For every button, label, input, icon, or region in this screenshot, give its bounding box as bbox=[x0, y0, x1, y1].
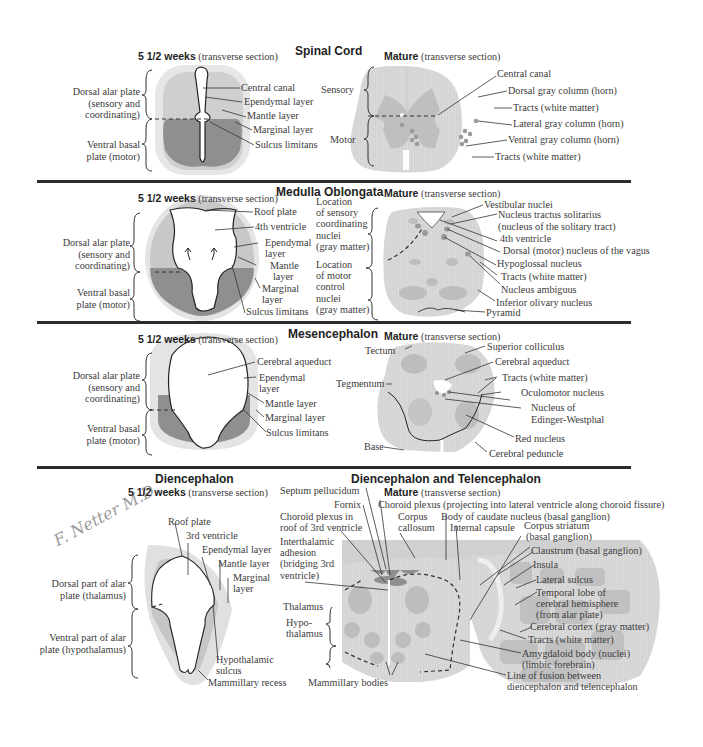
label-nucleus-tractus-solitarius: Nucleus tractus solitarius bbox=[498, 209, 601, 221]
label-roof-plate-dien: Roof plate bbox=[168, 516, 211, 528]
label-tracts-white-1: Tracts (white matter) bbox=[513, 102, 599, 114]
spinal-embryo-subtitle: 5 1/2 weeks (transverse section) bbox=[138, 50, 278, 62]
label-ependymal-layer: Ependymal layer bbox=[244, 96, 313, 108]
diencephalon-embryo-left-labels-ventral: Ventral part of alar plate (hypothalamus… bbox=[20, 632, 126, 655]
label-lateral-sulcus: Lateral sulcus bbox=[536, 574, 593, 586]
label-cerebral-cortex: Cerebral cortex (gray matter) bbox=[530, 621, 649, 633]
section-divider-3 bbox=[37, 466, 631, 469]
label-motor: Motor bbox=[330, 134, 355, 146]
diencephalon-embryo-left-labels-dorsal: Dorsal part of alar plate (thalamus) bbox=[20, 578, 126, 601]
label-tracts-white-telen: Tracts (white matter) bbox=[528, 634, 614, 646]
label-choroid-plexus-projecting: Choroid plexus (projecting into lateral … bbox=[378, 499, 664, 511]
label-dorsal-gray-column: Dorsal gray column (horn) bbox=[508, 85, 617, 97]
label-line-of-fusion: Line of fusion between diencephalon and … bbox=[507, 670, 638, 692]
label-sulcus-limitans: Sulcus limitans bbox=[255, 139, 318, 151]
mesencephalon-embryo-left-labels-motor: Ventral basal plate (motor) bbox=[40, 423, 140, 446]
label-thalamus: Thalamus bbox=[283, 601, 323, 613]
label-fornix: Fornix bbox=[334, 499, 361, 511]
label-lateral-gray-column: Lateral gray column (horn) bbox=[513, 118, 624, 130]
label-sulcus-limitans-mesen: Sulcus limitans bbox=[266, 427, 329, 439]
label-cerebral-peduncle: Cerebral peduncle bbox=[489, 448, 563, 460]
label-tracts-white-mesen: Tracts (white matter) bbox=[502, 372, 588, 384]
label-nucleus-solitary-tract: (nucleus of the solitary tract) bbox=[498, 221, 616, 233]
label-base: Base bbox=[364, 441, 384, 453]
dien-telen-mature-subtitle: Mature (transverse section) bbox=[384, 486, 500, 498]
mesencephalon-embryo-subtitle: 5 1/2 weeks (transverse section) bbox=[138, 333, 278, 345]
spinal-cord-embryo-figure bbox=[155, 65, 250, 175]
medulla-embryo-left-labels-motor: Ventral basal plate (motor) bbox=[30, 287, 130, 310]
label-hypothalamic-sulcus: Hypothalamic sulcus bbox=[216, 654, 274, 676]
label-marginal-layer-dien: Marginal layer bbox=[233, 572, 270, 594]
label-amygdaloid-body: Amygdaloid body (nuclei) (limbic forebra… bbox=[522, 648, 630, 670]
label-superior-colliculus: Superior colliculus bbox=[487, 341, 564, 353]
label-dorsal-motor-nucleus-vagus: Dorsal (motor) nucleus of the vagus bbox=[503, 245, 650, 257]
label-nucleus-edinger-westphal: Nucleus of Edinger-Westphal bbox=[531, 402, 604, 425]
label-ependymal-layer-dien: Ependymal layer bbox=[202, 544, 271, 556]
label-4th-ventricle-mature: 4th ventricle bbox=[500, 233, 551, 245]
label-marginal-layer-mesen: Marginal layer bbox=[265, 412, 325, 424]
label-mammillary-recess: Mammillary recess bbox=[208, 677, 286, 689]
label-septum-pellucidum: Septum pellucidum bbox=[280, 485, 360, 497]
label-insula: Insula bbox=[533, 559, 558, 571]
spinal-embryo-left-labels: Dorsal alar plate (sensory and coordinat… bbox=[40, 86, 140, 121]
label-marginal: Marginal layer bbox=[262, 283, 299, 305]
label-oculomotor-nucleus: Oculomotor nucleus bbox=[521, 387, 604, 399]
label-mantle-layer: Mantle layer bbox=[247, 110, 299, 122]
medulla-mature-figure bbox=[383, 207, 484, 317]
medulla-mature-subtitle: Mature (transverse section) bbox=[384, 187, 500, 199]
label-pyramid: Pyramid bbox=[486, 307, 521, 319]
label-ependymal-mesen: Ependymal layer bbox=[259, 372, 305, 394]
label-nucleus-ambiguus: Nucleus ambiguus bbox=[501, 284, 577, 296]
label-claustrum: Claustrum (basal ganglion) bbox=[531, 545, 642, 557]
label-roof-plate: Roof plate bbox=[254, 206, 297, 218]
label-tectum: Tectum bbox=[365, 345, 395, 357]
label-mammillary-bodies: Mammillary bodies bbox=[308, 677, 388, 689]
label-mantle-layer-dien: Mantle layer bbox=[218, 558, 270, 570]
label-internal-capsule: Internal capsule bbox=[450, 522, 515, 534]
label-cerebral-aqueduct-mature: Cerebral aqueduct bbox=[495, 356, 569, 368]
label-mantle-layer-mesen: Mantle layer bbox=[265, 398, 317, 410]
label-ependymal: Ependymal layer bbox=[265, 237, 311, 259]
diencephalon-embryo-subtitle: 5 1/2 weeks (transverse section) bbox=[128, 486, 268, 498]
medulla-embryo-left-labels: Dorsal alar plate (sensory and coordinat… bbox=[30, 237, 130, 272]
spinal-mature-subtitle: Mature (transverse section) bbox=[384, 50, 500, 62]
mesencephalon-embryo-left-labels: Dorsal alar plate (sensory and coordinat… bbox=[40, 370, 140, 405]
section-title-spinal-cord: Spinal Cord bbox=[295, 44, 362, 58]
medulla-embryo-subtitle: 5 1/2 weeks (transverse section) bbox=[138, 192, 278, 204]
medulla-sensory-location-labels: Location of sensory coordinating nuclei … bbox=[316, 196, 369, 252]
label-interthalamic-adhesion: Interthalamic adhesion (bridging 3rd ven… bbox=[280, 536, 334, 581]
label-hypoglossal-nucleus: Hypoglossal nucleus bbox=[497, 258, 582, 270]
label-ventral-gray-column: Ventral gray column (horn) bbox=[508, 134, 619, 146]
label-cerebral-aqueduct-embryo: Cerebral aqueduct bbox=[257, 356, 331, 368]
section-title-mesencephalon: Mesencephalon bbox=[288, 327, 378, 341]
section-divider-2 bbox=[37, 321, 631, 324]
label-tegmentum: Tegmentum bbox=[336, 378, 385, 390]
label-sensory: Sensory bbox=[321, 84, 354, 96]
medulla-motor-location-labels: Location of motor control nuclei (gray m… bbox=[316, 259, 369, 315]
mesencephalon-mature-figure bbox=[377, 342, 494, 452]
section-divider-1 bbox=[37, 180, 631, 183]
label-temporal-lobe: Temporal lobe of cerebral hemisphere (fr… bbox=[536, 587, 618, 620]
mesencephalon-embryo-figure bbox=[150, 333, 258, 450]
section-title-diencephalon: Diencephalon bbox=[155, 472, 234, 486]
mesencephalon-mature-subtitle: Mature (transverse section) bbox=[384, 330, 500, 342]
section-title-dien-telen: Diencephalon and Telencephalon bbox=[351, 472, 541, 486]
label-tracts-white-2: Tracts (white matter) bbox=[495, 151, 581, 163]
label-mature-central-canal: Central canal bbox=[497, 68, 551, 80]
label-central-canal: Central canal bbox=[241, 82, 295, 94]
label-hypothalamus: Hypo- thalamus bbox=[286, 617, 323, 639]
label-tracts-white-medulla: Tracts (white matter) bbox=[501, 271, 587, 283]
spinal-embryo-left-labels-motor: Ventral basal plate (motor) bbox=[40, 139, 140, 162]
label-4th-ventricle: 4th ventricle bbox=[255, 221, 306, 233]
label-choroid-plexus-roof: Choroid plexus in roof of 3rd ventricle bbox=[280, 511, 362, 533]
label-corpus-callosum: Corpus callosum bbox=[398, 511, 435, 533]
label-corpus-striatum: Corpus striatum (basal ganglion) bbox=[524, 520, 592, 542]
label-3rd-ventricle: 3rd ventricle bbox=[186, 530, 238, 542]
label-sulcus-limitans-medulla: Sulcus limitans bbox=[246, 306, 309, 318]
label-red-nucleus: Red nucleus bbox=[515, 433, 565, 445]
label-marginal-layer: Marginal layer bbox=[253, 124, 313, 136]
label-mantle: Mantle layer bbox=[270, 260, 299, 282]
